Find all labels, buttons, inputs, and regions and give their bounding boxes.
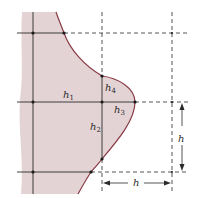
node <box>171 32 173 34</box>
node <box>89 170 92 173</box>
arrowhead-left-icon <box>103 181 110 186</box>
arrowhead-right-icon <box>164 181 171 186</box>
node <box>171 101 173 103</box>
vertical-dimension-label: h <box>178 133 184 144</box>
node <box>133 100 136 103</box>
domain-region <box>20 12 135 194</box>
node <box>100 100 103 103</box>
node <box>100 74 103 77</box>
node <box>171 171 173 173</box>
arrowhead-down-icon <box>180 164 185 171</box>
horizontal-dimension-label: h <box>133 177 139 188</box>
node <box>100 157 103 160</box>
node <box>31 31 34 34</box>
node <box>31 100 34 103</box>
node <box>31 170 34 173</box>
node <box>62 31 65 34</box>
arrowhead-up-icon <box>180 103 185 110</box>
finite-difference-grid-diagram: h h h1 h4 h3 h2 <box>0 0 202 198</box>
